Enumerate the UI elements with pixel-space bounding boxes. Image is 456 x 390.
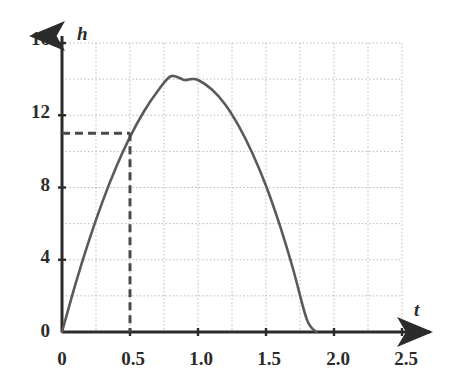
x-tick-label-1-5: 1.5 xyxy=(244,349,294,368)
y-tick-label-0: 0 xyxy=(16,321,50,340)
x-tick-label-2-0: 2.0 xyxy=(313,349,363,368)
x-tick-label-2-5: 2.5 xyxy=(381,349,431,368)
x-axis-label: t xyxy=(414,300,419,319)
y-tick-label-8: 8 xyxy=(16,175,50,194)
plot-canvas xyxy=(0,0,456,390)
y-axis-label: h xyxy=(77,24,88,43)
y-tick-label-4: 4 xyxy=(16,247,50,266)
x-tick-label-0-5: 0.5 xyxy=(108,349,158,368)
y-tick-label-16: 16 xyxy=(16,29,50,48)
chart-figure: 16 12 8 4 0 0 0.5 1.0 1.5 2.0 2.5 h t xyxy=(0,0,456,390)
y-tick-label-12: 12 xyxy=(16,102,50,121)
x-tick-label-0: 0 xyxy=(42,349,82,368)
data-curve xyxy=(62,76,316,332)
x-tick-label-1-0: 1.0 xyxy=(176,349,226,368)
